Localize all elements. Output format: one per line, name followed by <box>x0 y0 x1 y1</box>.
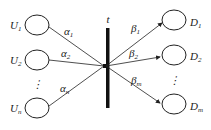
dest-node-m <box>162 94 186 114</box>
source-node-1 <box>25 15 49 35</box>
dest-node-1 <box>162 10 186 30</box>
beta-label-2: β2 <box>128 47 138 61</box>
source-node-2 <box>25 50 49 70</box>
center-label: t <box>106 13 110 25</box>
alpha-label-1: α1 <box>64 25 73 39</box>
source-ellipsis: ⋮ <box>32 78 43 90</box>
dest-label-m: Dm <box>189 100 203 114</box>
flow-diagram: U1 U2 ⋮ Un α1 α2 αn t β1 β2 βm D1 D2 ⋮ D… <box>0 0 211 130</box>
source-label-2: U2 <box>10 54 22 68</box>
source-node-n <box>25 98 49 118</box>
dest-ellipsis: ⋮ <box>169 74 180 86</box>
alpha-label-n: αn <box>60 82 70 96</box>
alpha-label-2: α2 <box>61 47 71 61</box>
center-node <box>103 64 106 68</box>
beta-label-m: βm <box>130 74 142 88</box>
edge-alpha-2 <box>49 60 104 66</box>
source-label-1: U1 <box>10 19 21 33</box>
beta-label-1: β1 <box>130 22 140 36</box>
dest-label-2: D2 <box>189 50 202 64</box>
edge-alpha-n <box>49 66 104 106</box>
edge-alpha-1 <box>49 27 104 66</box>
source-label-n: Un <box>10 102 22 116</box>
dest-node-2 <box>162 45 186 65</box>
dest-label-1: D1 <box>189 16 201 30</box>
